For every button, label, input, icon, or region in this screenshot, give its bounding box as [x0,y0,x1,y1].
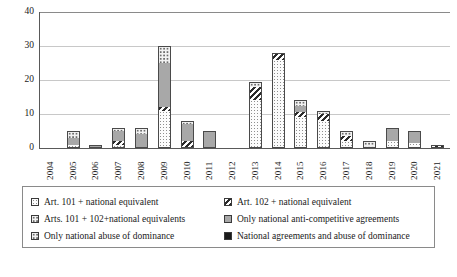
legend-label: Only national abuse of dominance [44,231,174,241]
stacked-bar [363,141,376,148]
stacked-bar [431,145,444,148]
bar-segment [181,141,194,148]
x-axis-tick: 2004 [39,150,62,180]
bar-segment [249,87,262,101]
y-axis: 010203040 [0,0,38,180]
bar-segment [249,100,262,148]
x-axis-tick-label: 2004 [46,150,55,180]
x-axis-tick-label: 2021 [433,150,442,180]
x-axis-tick: 2008 [130,150,153,180]
legend-item-4: Only national abuse of dominance [31,231,224,241]
x-axis-tick: 2021 [426,150,449,180]
stacked-bar [181,121,194,148]
bar-segment [135,134,148,148]
legend-row: Art. 101 + national equivalent Art. 102 … [31,193,426,210]
stacked-bar [408,131,421,148]
bar-segment [67,138,80,145]
bar-column-2007 [107,12,130,148]
legend-item-2: Arts. 101 + 102+national equivalents [31,214,224,224]
chart-figure: 010203040 200420052006200720082009201020… [0,0,457,277]
bar-segment [294,117,307,148]
legend-swatch-icon [224,215,232,223]
x-axis-tick: 2020 [404,150,427,180]
x-axis-tick-label: 2010 [183,150,192,180]
bar-column-2005 [62,12,85,148]
stacked-bar [272,53,285,148]
legend-swatch-icon [31,232,39,240]
bar-segment [67,131,80,138]
x-axis-tick: 2011 [198,150,221,180]
x-axis-tick-label: 2008 [137,150,146,180]
x-axis-tick: 2012 [221,150,244,180]
legend-item-0: Art. 101 + national equivalent [31,197,224,207]
bar-column-2009 [153,12,176,148]
bar-segment [135,128,148,135]
bar-segment [431,145,444,148]
bar-segment [89,145,102,148]
bar-segment [272,60,285,148]
legend-label: Art. 102 + national equivalent [237,197,351,207]
x-axis-tick-label: 2020 [410,150,419,180]
x-axis-tick-label: 2019 [388,150,397,180]
y-axis-tick-label: 40 [25,7,35,17]
bar-column-2010 [176,12,199,148]
bar-column-2021 [426,12,449,148]
stacked-bar [89,145,102,148]
x-axis-tick-label: 2013 [251,150,260,180]
x-axis-tick-label: 2011 [205,150,214,180]
legend-swatch-icon [224,232,232,240]
x-axis-tick: 2006 [85,150,108,180]
bar-column-2014 [267,12,290,148]
legend-label: National agreements and abuse of dominan… [237,231,410,241]
stacked-bar [203,131,216,148]
plot-area: 010203040 200420052006200720082009201020… [0,0,457,180]
x-axis-tick-label: 2015 [296,150,305,180]
bar-segment [340,141,353,148]
x-axis-tick-label: 2009 [160,150,169,180]
bar-column-2016 [312,12,335,148]
legend-row: Arts. 101 + 102+national equivalents Onl… [31,210,426,227]
x-axis-tick: 2009 [153,150,176,180]
bar-segment [408,143,421,148]
stacked-bar [386,128,399,148]
x-axis-tick-label: 2006 [91,150,100,180]
bar-segment [294,106,307,113]
bar-segment [408,131,421,143]
bar-column-2018 [358,12,381,148]
bar-column-2012 [221,12,244,148]
stacked-bar [67,131,80,148]
x-axis-tick: 2019 [381,150,404,180]
x-axis: 2004200520062007200820092010201120122013… [39,150,449,180]
bar-segment [386,141,399,148]
legend-item-1: Art. 102 + national equivalent [224,197,426,207]
legend-swatch-icon [31,198,39,206]
stacked-bar [317,111,330,148]
x-axis-tick-label: 2014 [274,150,283,180]
bar-column-2004 [39,12,62,148]
x-axis-tick-label: 2005 [69,150,78,180]
bar-segment [203,131,216,148]
stacked-bar [249,82,262,148]
x-axis-tick: 2005 [62,150,85,180]
stacked-bar [112,128,125,148]
legend-label: Arts. 101 + 102+national equivalents [44,214,185,224]
stacked-bar [294,100,307,148]
legend-label: Only national anti-competitive agreement… [237,214,399,224]
x-axis-tick-label: 2018 [365,150,374,180]
chart-legend: Art. 101 + national equivalent Art. 102 … [22,186,435,248]
x-axis-tick: 2007 [107,150,130,180]
bar-segment [112,145,125,148]
stacked-bar [340,131,353,148]
bar-segment [363,146,376,148]
legend-item-5: National agreements and abuse of dominan… [224,231,426,241]
x-axis-tick: 2017 [335,150,358,180]
y-axis-tick-label: 30 [25,41,35,51]
bar-segment [386,128,399,142]
x-axis-tick-label: 2017 [342,150,351,180]
legend-row: Only national abuse of dominance Nationa… [31,227,426,244]
bar-segment [67,145,80,148]
x-axis-tick-label: 2016 [319,150,328,180]
x-axis-tick-label: 2007 [114,150,123,180]
bar-column-2008 [130,12,153,148]
x-axis-tick: 2018 [358,150,381,180]
